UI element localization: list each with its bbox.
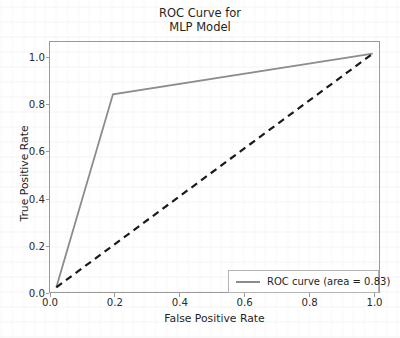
xtick-label-2: 0.4 <box>172 297 188 308</box>
ytick-label-5: 1.0 <box>29 52 45 63</box>
legend-box: ROC curve (area = 0.83) <box>228 270 379 293</box>
xtick-mark-0 <box>50 293 51 297</box>
xtick-mark-5 <box>374 293 375 297</box>
ytick-label-4: 0.8 <box>29 99 45 110</box>
xtick-mark-2 <box>179 293 180 297</box>
ytick-label-1: 0.2 <box>29 240 45 251</box>
xtick-label-5: 1.0 <box>366 297 382 308</box>
roc-curve-figure: ROC Curve for MLP Model 0.0 0.2 0.4 0.6 … <box>0 0 400 338</box>
legend-label-roc-curve: ROC curve (area = 0.83) <box>267 276 390 287</box>
xtick-label-3: 0.6 <box>237 297 253 308</box>
plot-area <box>49 41 380 293</box>
x-axis-label: False Positive Rate <box>49 312 380 325</box>
y-axis-label: True Positive Rate <box>18 94 31 254</box>
legend-swatch-roc-curve <box>236 281 260 283</box>
xtick-mark-3 <box>244 293 245 297</box>
xtick-mark-4 <box>309 293 310 297</box>
ytick-label-3: 0.6 <box>29 146 45 157</box>
xtick-label-0: 0.0 <box>42 297 58 308</box>
series-line-1 <box>56 54 372 288</box>
xtick-label-4: 0.8 <box>301 297 317 308</box>
chart-title: ROC Curve for MLP Model <box>0 7 400 34</box>
plot-lines <box>50 42 379 292</box>
ytick-label-2: 0.4 <box>29 193 45 204</box>
ytick-mark-0 <box>46 293 50 294</box>
xtick-label-1: 0.2 <box>107 297 123 308</box>
xtick-mark-1 <box>114 293 115 297</box>
